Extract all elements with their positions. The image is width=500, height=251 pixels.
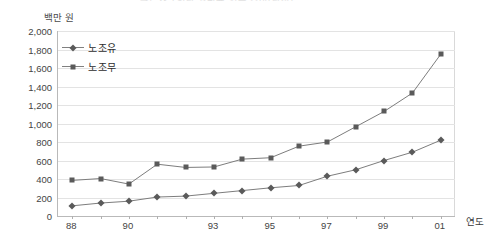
legend-label-nojo-yu: 노조유 [88,40,117,55]
data-point-square [70,178,75,183]
y-axis-tick-label: 1,200 [28,100,52,111]
legend-item-nojo-yu: 노조유 [62,40,117,55]
x-axis-tick [101,216,102,219]
data-point-square [183,165,188,170]
data-point-square [325,140,330,145]
series-lines [58,31,455,216]
x-axis-tick [384,216,385,219]
x-axis-tick [356,216,357,219]
data-point-square [155,162,160,167]
y-axis-tick-label: 1,000 [28,118,52,129]
legend-line-diamond [62,47,84,48]
data-point-square [438,52,443,57]
legend-item-nojo-mu: 노조무 [62,59,117,74]
data-point-square [268,155,273,160]
chart-legend: 노조유 노조무 [62,40,117,74]
y-axis-tick-label: 1,400 [28,81,52,92]
x-axis-tick-label: 97 [321,220,332,231]
x-axis-title: 연도 [466,214,484,228]
y-axis-tick-label: 600 [36,155,52,166]
x-axis-tick-label: 90 [123,220,134,231]
data-point-square [353,124,358,129]
data-point-square [410,90,415,95]
y-axis-tick-label: 400 [36,174,52,185]
y-axis-unit-label: 백만 원 [44,10,74,24]
data-point-square [211,164,216,169]
y-axis-tick-label: 1,800 [28,44,52,55]
legend-label-nojo-mu: 노조무 [88,59,117,74]
data-point-square [240,157,245,162]
x-axis-tick-label: 95 [264,220,275,231]
y-axis-tick-label: 800 [36,137,52,148]
series-line-노조무 [72,54,441,184]
data-point-square [297,144,302,149]
plot-area [57,31,455,217]
square-marker-icon [71,64,76,69]
data-point-square [382,109,387,114]
x-axis-tick-label: 01 [435,220,446,231]
diamond-marker-icon [69,44,76,51]
x-axis-tick [72,216,73,219]
legend-line-square [62,66,84,67]
x-axis-tick-label: 93 [208,220,219,231]
x-axis-tick [412,216,413,219]
x-axis-tick [129,216,130,219]
x-axis-tick [186,216,187,219]
data-point-square [126,182,131,187]
x-axis-tick-labels: 88909395979901 [57,220,455,234]
x-axis-tick [299,216,300,219]
x-axis-tick [441,216,442,219]
y-axis-tick-label: 1,600 [28,63,52,74]
x-axis-tick [214,216,215,219]
data-point-square [98,176,103,181]
y-axis-tick-label: 200 [36,192,52,203]
x-axis-tick [242,216,243,219]
x-axis-tick [327,216,328,219]
x-axis-tick [271,216,272,219]
x-axis-tick [157,216,158,219]
series-line-노조유 [72,140,441,206]
x-axis-tick-label: 88 [66,220,77,231]
chart-title-clipped: 근로자 1인당 월평균 임금 추이(남성) [140,0,440,1]
y-axis-tick-label: 0 [47,211,52,222]
x-axis-tick-label: 99 [378,220,389,231]
chart-container: 근로자 1인당 월평균 임금 추이(남성) 백만 원 0200400600800… [0,0,500,251]
y-axis-tick-label: 2,000 [28,26,52,37]
y-axis-tick-labels: 02004006008001,0001,2001,4001,6001,8002,… [0,31,52,217]
